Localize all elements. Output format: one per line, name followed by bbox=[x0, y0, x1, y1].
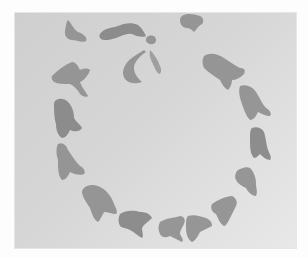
shape-top-left-small bbox=[65, 20, 87, 42]
shape-bottom-left-bird bbox=[82, 185, 117, 222]
shape-left-lower-bell bbox=[57, 143, 85, 180]
shape-bottom-right-bird bbox=[211, 196, 237, 226]
shape-top-dot bbox=[146, 36, 156, 45]
shape-top-right-bird bbox=[203, 54, 245, 90]
shape-left-upper-bird bbox=[52, 62, 90, 97]
shape-bottom-bird-c bbox=[186, 215, 212, 242]
shape-right-mid-bell bbox=[250, 127, 271, 160]
shape-bottom-bird-a bbox=[119, 211, 153, 238]
shape-teardrop bbox=[150, 50, 161, 74]
shape-bottom-bird-b bbox=[159, 216, 185, 242]
shape-right-lower-bell bbox=[235, 167, 257, 196]
shape-top-right-blob bbox=[180, 14, 203, 32]
photo-frame: Photograph of a paper artwork: gray cut-… bbox=[0, 0, 308, 258]
cutout-ring-artwork bbox=[0, 0, 308, 258]
shape-left-mid-bell bbox=[54, 99, 82, 138]
shape-top-comma bbox=[99, 23, 146, 40]
shape-right-upper-bird bbox=[239, 85, 271, 120]
shape-crescent bbox=[123, 50, 146, 83]
